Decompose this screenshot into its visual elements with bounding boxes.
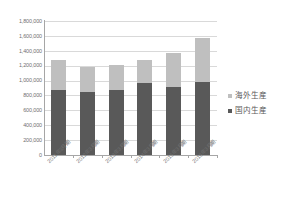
y-tick-label: 800,000: [2, 92, 42, 98]
legend-label-overseas: 海外生産: [235, 91, 267, 100]
legend-item-overseas[interactable]: 海外生産: [228, 88, 286, 103]
bar-group[interactable]: [195, 21, 210, 155]
x-axis-tick-labels: 2011年3月期2012年3月期2013年3月期2014年3月期2015年3月期…: [0, 156, 287, 216]
bar-segment-overseas[interactable]: [80, 67, 95, 92]
y-tick-label: 1,200,000: [2, 62, 42, 68]
stacked-bar-chart: 1,800,0001,600,0001,400,0001,200,0001,00…: [0, 0, 287, 216]
bar-series-group: [44, 21, 217, 155]
bar-segment-overseas[interactable]: [166, 53, 181, 87]
y-tick-label: 1,600,000: [2, 33, 42, 39]
y-tick-label: 1,000,000: [2, 77, 42, 83]
bar-group[interactable]: [137, 21, 152, 155]
bar-group[interactable]: [80, 21, 95, 155]
legend-swatch-domestic-icon: [228, 109, 232, 113]
legend-item-domestic[interactable]: 国内生産: [228, 103, 286, 118]
plot-area: [44, 21, 217, 155]
y-tick-label: 1,400,000: [2, 48, 42, 54]
legend-swatch-overseas-icon: [228, 94, 232, 98]
y-tick-label: 1,800,000: [2, 18, 42, 24]
bar-group[interactable]: [51, 21, 66, 155]
chart-title: [0, 2, 287, 10]
y-axis-line: [44, 20, 45, 156]
y-tick-label: 200,000: [2, 137, 42, 143]
legend: 海外生産 国内生産: [228, 88, 286, 118]
y-tick-label: 600,000: [2, 107, 42, 113]
bar-group[interactable]: [109, 21, 124, 155]
bar-group[interactable]: [166, 21, 181, 155]
y-tick-label: 400,000: [2, 122, 42, 128]
bar-segment-overseas[interactable]: [137, 60, 152, 83]
bar-segment-overseas[interactable]: [51, 60, 66, 91]
legend-label-domestic: 国内生産: [235, 106, 267, 115]
bar-segment-overseas[interactable]: [195, 38, 210, 82]
bar-segment-overseas[interactable]: [109, 65, 124, 90]
